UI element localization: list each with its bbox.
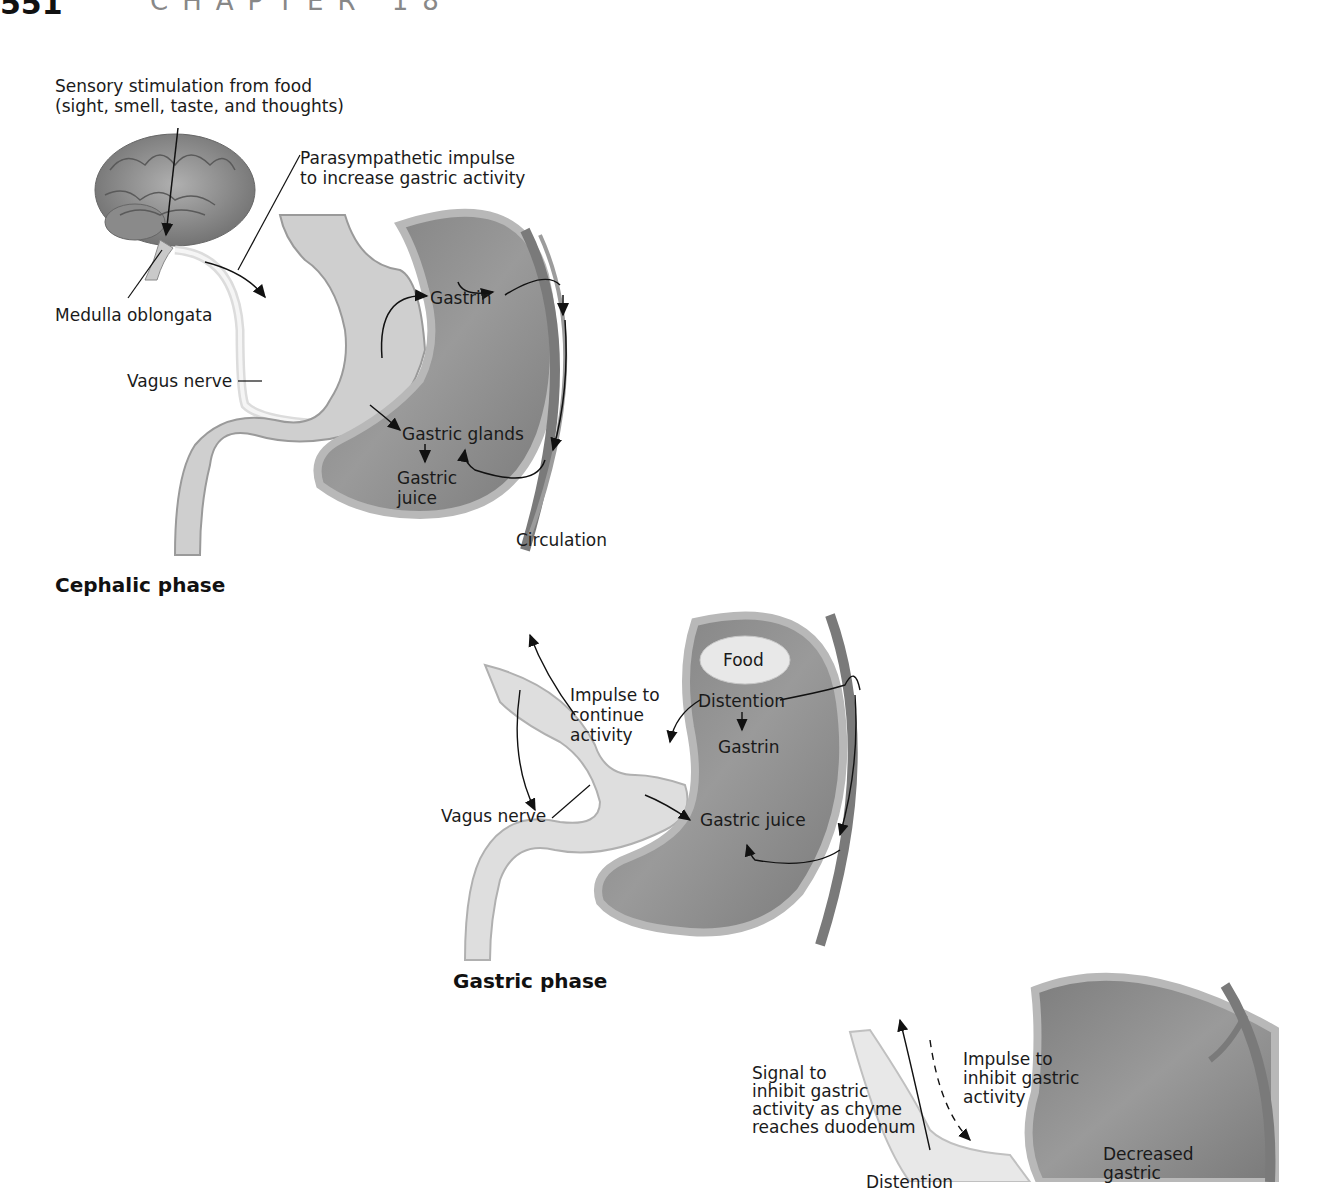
label-gastric-juice: Gastric juice <box>397 468 457 508</box>
label-distention: Distention <box>698 691 785 711</box>
label-medulla-oblongata: Medulla oblongata <box>55 305 212 325</box>
label-distention-intestinal: Distention <box>866 1172 953 1192</box>
label-gastric-juice-gastric: Gastric juice <box>700 810 806 830</box>
phase-title-cephalic: Cephalic phase <box>55 573 225 597</box>
label-vagus-nerve: Vagus nerve <box>127 371 232 391</box>
label-signal-inhibit: Signal to inhibit gastric activity as ch… <box>752 1064 916 1136</box>
label-circulation: Circulation <box>516 530 607 550</box>
label-gastrin-gastric: Gastrin <box>718 737 780 757</box>
stomach-cephalic <box>175 213 565 555</box>
label-parasympathetic-impulse: Parasympathetic impulse to increase gast… <box>300 148 525 188</box>
label-food: Food <box>723 650 764 670</box>
phase-title-gastric: Gastric phase <box>453 969 607 993</box>
label-impulse-continue: Impulse to continue activity <box>570 685 660 745</box>
label-gastrin: Gastrin <box>430 288 492 308</box>
label-decreased-gastric: Decreased gastric <box>1103 1145 1194 1183</box>
label-vagus-nerve-gastric: Vagus nerve <box>441 806 546 826</box>
label-sensory-stimulation: Sensory stimulation from food (sight, sm… <box>55 76 344 116</box>
stomach-gastric <box>465 615 853 960</box>
label-impulse-inhibit: Impulse to inhibit gastric activity <box>963 1050 1079 1107</box>
label-gastric-glands: Gastric glands <box>402 424 524 444</box>
